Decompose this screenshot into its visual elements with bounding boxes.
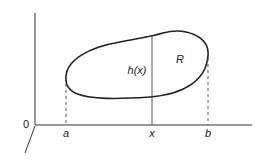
- origin-label: 0: [23, 118, 29, 130]
- b-label: b: [205, 127, 211, 139]
- a-label: a: [63, 127, 69, 139]
- region-diagram: 0 a x b h(x) R: [0, 0, 263, 164]
- height-label: h(x): [128, 64, 147, 76]
- depth-axis: [25, 126, 35, 153]
- x-label: x: [148, 127, 155, 139]
- region-label: R: [176, 53, 184, 65]
